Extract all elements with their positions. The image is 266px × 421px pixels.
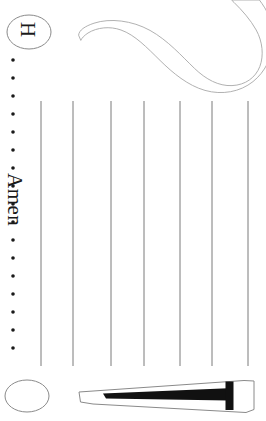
margin-note-amen: Amen [4, 173, 25, 226]
empty-badge-ellipse [5, 380, 49, 412]
wedge-ink-stem [226, 382, 234, 411]
hook-glyph-body [79, 0, 266, 93]
margin-dot [11, 328, 15, 332]
page-artwork [0, 0, 266, 421]
margin-dot [11, 274, 15, 278]
margin-dot [11, 292, 15, 296]
margin-dot [11, 166, 15, 170]
margin-dot [11, 94, 15, 98]
margin-dot [11, 112, 15, 116]
margin-dot [11, 238, 15, 242]
letter-badge-glyph: H [17, 22, 38, 37]
margin-dot [11, 310, 15, 314]
margin-dot [11, 76, 15, 80]
margin-dot [11, 130, 15, 134]
margin-dot [11, 58, 15, 62]
margin-dot [11, 346, 15, 350]
manuscript-page: H Amen [0, 0, 266, 421]
margin-dot [11, 256, 15, 260]
margin-dot [11, 148, 15, 152]
ruled-column-lines [41, 101, 248, 366]
